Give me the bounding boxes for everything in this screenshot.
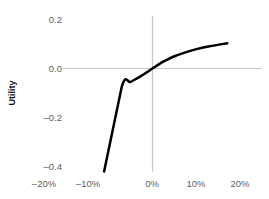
- plot-area: [0, 0, 269, 199]
- utility-value-function-chart: Utility 0.20.0–0.2–0.4 –20%–10%0%10%20%: [0, 0, 269, 199]
- utility-curve: [104, 43, 227, 171]
